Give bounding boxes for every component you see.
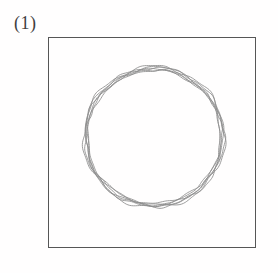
plot-border <box>48 37 256 248</box>
figure-panel: (1) <box>0 0 278 273</box>
figure-label: (1) <box>14 12 37 34</box>
